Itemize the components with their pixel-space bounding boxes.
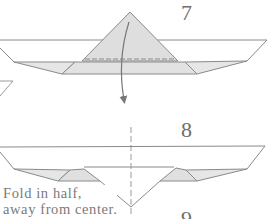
- caption-line-2: away from center.: [3, 201, 117, 217]
- origami-diagram: 7 8 9 Fold in half, away from center.: [0, 0, 268, 219]
- step-number-9: 9: [181, 208, 192, 219]
- partial-previous-step: [0, 81, 13, 96]
- step-number-7: 7: [181, 2, 192, 24]
- step-7-boat: [0, 12, 267, 74]
- step-number-8: 8: [181, 119, 192, 141]
- instruction-caption: Fold in half, away from center.: [3, 185, 117, 217]
- caption-line-1: Fold in half,: [3, 185, 117, 201]
